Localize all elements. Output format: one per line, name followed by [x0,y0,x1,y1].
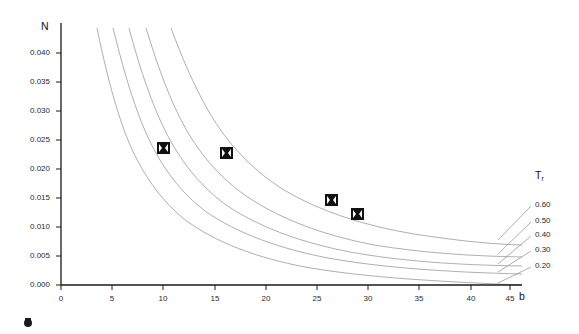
legend-title: Tr [535,169,544,182]
legend-leader-030 [498,251,531,272]
legend-leader-020 [498,267,531,283]
curve-tr-040 [129,28,522,266]
x-tick-label: 25 [304,294,330,303]
legend-leader-040 [498,236,531,264]
data-point-marker[interactable] [351,208,364,220]
y-tick-label: 0.000 [8,280,50,289]
x-tick-label: 35 [406,294,432,303]
legend-item-020[interactable]: 0.20 [535,261,551,270]
data-point-marker[interactable] [220,147,233,159]
y-axis-title: N [41,20,49,32]
x-tick-label: 45 [497,294,523,303]
x-tick-label: 20 [253,294,279,303]
legend-title-subscript: r [541,175,543,182]
x-tick-label: 30 [355,294,381,303]
legend-item-030[interactable]: 0.30 [535,245,551,254]
y-tick-label: 0.005 [8,251,50,260]
y-tick-label: 0.025 [8,135,50,144]
legend-item-040[interactable]: 0.40 [535,230,551,239]
legend-item-050[interactable]: 0.50 [535,216,551,225]
y-tick-label: 0.040 [8,48,50,57]
page-artifact-tab [25,318,31,321]
y-tick-label: 0.010 [8,222,50,231]
y-tick-label: 0.035 [8,77,50,86]
legend-item-060[interactable]: 0.60 [535,200,551,209]
y-tick-label: 0.015 [8,193,50,202]
x-tick-label: 40 [458,294,484,303]
x-tick-label: 5 [99,294,125,303]
data-point-marker[interactable] [157,142,170,154]
curve-tr-060 [171,28,522,245]
data-point-markers [157,142,364,220]
curve-tr-020 [97,28,522,285]
y-tick-label: 0.030 [8,106,50,115]
curve-group [97,28,522,285]
data-point-marker[interactable] [325,194,338,206]
x-tick-label: 0 [48,294,74,303]
chart-figure: N b 0.000 0.005 0.010 0.015 0.020 0.025 … [0,0,579,334]
legend-leader-060 [498,206,531,240]
chart-canvas [0,0,579,334]
x-tick-label: 10 [150,294,176,303]
curve-tr-030 [113,28,522,274]
x-tick-label: 15 [202,294,228,303]
y-tick-label: 0.020 [8,164,50,173]
axis-group [56,23,522,290]
curve-tr-050 [146,28,522,257]
legend-leader-050 [498,222,531,254]
